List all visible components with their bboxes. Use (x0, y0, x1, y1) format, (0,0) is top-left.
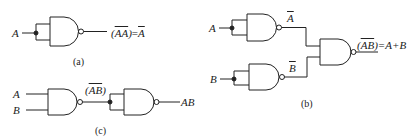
junction-dot-icon (34, 31, 38, 35)
input-a-label: A (13, 89, 20, 100)
var-ab: AB (89, 84, 102, 96)
output-expression-b: (AB)=A+B (357, 38, 406, 51)
circuit-wiring (0, 0, 409, 139)
output-expression-a: (AA)=A (111, 26, 145, 39)
inversion-bubble-icon (277, 25, 282, 30)
caption-b: (b) (301, 99, 313, 109)
nand-gate-icon (48, 89, 77, 115)
nand-ab-label: (AB) (85, 85, 106, 96)
panel-a-circuit (22, 17, 107, 46)
caption-a: (a) (73, 57, 84, 67)
input-a-label: A (209, 23, 216, 34)
panel-b-circuit (219, 14, 378, 90)
output-ab-label: AB (181, 97, 194, 108)
nand-gate-icon (50, 17, 79, 46)
rhs-expression: =A+B (378, 39, 406, 51)
not-a-label: A (287, 13, 294, 24)
overbar-group: AB (361, 38, 374, 51)
overbar-group: AA (115, 26, 128, 39)
junction-dot-icon (108, 100, 112, 104)
inversion-bubble-icon (154, 100, 159, 105)
inversion-bubble-icon (280, 75, 285, 80)
inversion-bubble-icon (79, 29, 84, 34)
input-a-label: A (12, 28, 19, 39)
inversion-bubble-icon (351, 50, 356, 55)
input-b-label: B (210, 74, 217, 85)
logic-gate-diagram: A (AA)=A (a) A B A B (AB)=A+B (b) A B (A… (0, 0, 409, 139)
nand-gate-icon (247, 14, 277, 41)
paren: ) (102, 84, 106, 96)
not-a: A (138, 27, 145, 39)
nand-gate-icon (320, 39, 351, 65)
inversion-bubble-icon (78, 100, 83, 105)
not-b-label: B (289, 63, 296, 74)
nand-gate-icon (249, 64, 279, 90)
input-b-label: B (13, 105, 20, 116)
caption-c: (c) (95, 126, 106, 136)
junction-dot-icon (230, 26, 234, 30)
junction-dot-icon (232, 77, 236, 81)
nand-gate-icon (124, 89, 154, 115)
